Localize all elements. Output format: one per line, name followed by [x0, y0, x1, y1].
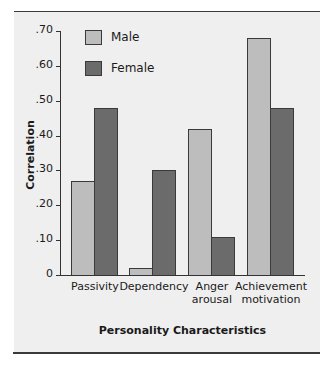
y-tick: [56, 66, 60, 67]
bar-male-1: [129, 268, 153, 275]
y-tick-label: .20: [13, 198, 53, 210]
y-tick: [56, 101, 60, 102]
bar-female-3: [270, 108, 294, 275]
y-tick: [56, 170, 60, 171]
legend-swatch-male: [85, 30, 102, 45]
y-tick-label: .50: [13, 94, 53, 106]
legend-label-female: Female: [111, 61, 154, 75]
bar-female-1: [152, 170, 176, 275]
y-tick-label: .30: [13, 163, 53, 175]
bar-female-0: [94, 108, 118, 275]
y-tick: [56, 240, 60, 241]
y-axis: [60, 31, 61, 275]
bar-male-2: [188, 129, 212, 275]
y-tick: [56, 31, 60, 32]
y-tick: [56, 275, 60, 276]
y-tick: [56, 136, 60, 137]
bottom-rule: [13, 352, 320, 354]
y-tick-label: .60: [13, 59, 53, 71]
y-tick: [56, 205, 60, 206]
x-axis: [60, 275, 305, 276]
x-axis-label: Personality Characteristics: [60, 324, 305, 337]
y-tick-label: .70: [13, 24, 53, 36]
bar-male-3: [247, 38, 271, 275]
bar-female-2: [211, 237, 235, 275]
category-label: Achievementmotivation: [231, 280, 311, 306]
legend-label-male: Male: [111, 30, 139, 44]
y-tick-label: 0: [13, 268, 53, 280]
bar-male-0: [71, 181, 95, 275]
y-tick-label: .40: [13, 129, 53, 141]
y-tick-label: .10: [13, 233, 53, 245]
legend-swatch-female: [85, 61, 102, 76]
